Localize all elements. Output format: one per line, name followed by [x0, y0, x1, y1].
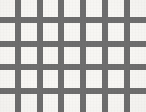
horizontal-bar [0, 17, 146, 23]
grid-pattern-canvas [0, 0, 146, 112]
horizontal-bar [0, 88, 146, 94]
horizontal-bar [0, 41, 146, 47]
horizontal-bar [0, 64, 146, 70]
